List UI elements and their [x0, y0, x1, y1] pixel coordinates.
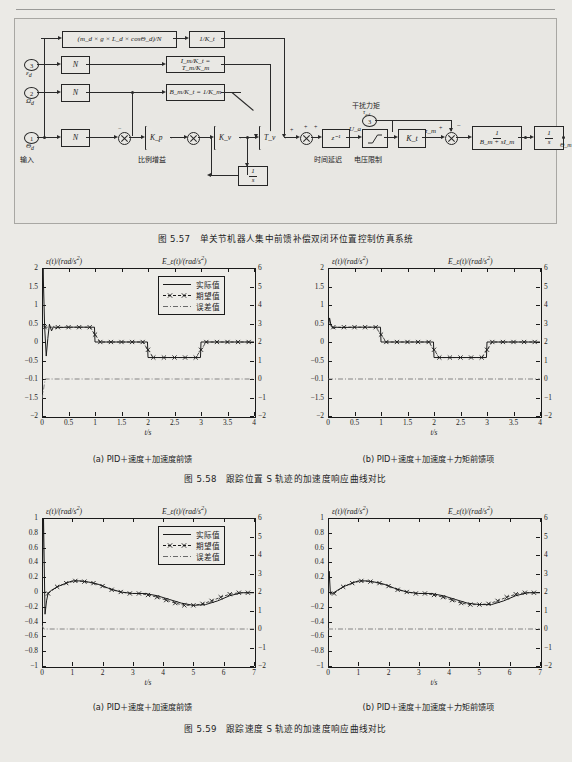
x-tick: 1 — [81, 418, 109, 427]
y-tick-left: 0 — [294, 337, 324, 346]
x-tick: 1 — [367, 418, 395, 427]
legend-label: 误差值 — [196, 301, 220, 312]
sum-velocity — [187, 132, 200, 145]
legend-key-icon — [162, 280, 192, 289]
y-tick-right: 2 — [544, 337, 570, 346]
y-tick-mark-left — [42, 416, 46, 417]
y-tick-left: 1.5 — [294, 282, 324, 291]
block-voltage-saturation — [362, 129, 388, 148]
y-tick-left: 1 — [8, 513, 38, 522]
y-tick-left: 0.2 — [8, 572, 38, 581]
block-inverse-kt: 1/K_t — [189, 31, 225, 48]
y-tick-right: 2 — [544, 587, 570, 596]
x-tick-mark-top — [540, 518, 541, 522]
series-marker — [219, 595, 223, 599]
sum-position-error — [118, 132, 131, 145]
signal-tau-m-label: τ_m — [425, 128, 436, 136]
block-diagram-5-57: (m_d × g × L_d × cosΘ_d)/N 1/K_t 3 εd N … — [14, 18, 557, 224]
legend-row: 误差值 — [162, 551, 220, 562]
y-tick-right: 1 — [544, 606, 570, 615]
series-layer-fig559b — [328, 518, 540, 666]
port-3-label: εd — [26, 70, 32, 79]
x-tick: 3 — [473, 418, 501, 427]
x-tick-mark-top — [254, 518, 255, 522]
y-tick-right: −1 — [258, 643, 284, 652]
x-tick: 1 — [58, 668, 86, 677]
y-axis-label-right-fig558a: E_ε(t)/(rad/s2) — [162, 254, 207, 266]
y-tick-left: −0.4 — [8, 617, 38, 626]
block-inertia-ratio: I_m/K_t = T_m/K_m — [166, 56, 225, 73]
series-实际值 — [328, 571, 540, 604]
y-tick-left: 0 — [8, 587, 38, 596]
y-tick-left: −0.1 — [294, 374, 324, 383]
voltage-limit-label: 电压限制 — [354, 154, 382, 164]
x-tick: 4 — [435, 668, 463, 677]
y-tick-left: 2 — [294, 263, 324, 272]
block-inner-integrator: 1s — [238, 166, 268, 186]
integ-den: s — [546, 139, 553, 146]
series-实际值 — [328, 318, 540, 358]
y-tick-left: 0.8 — [8, 528, 38, 537]
y-tick-right: 5 — [544, 532, 570, 541]
y-tick-right: 5 — [258, 282, 284, 291]
x-tick-mark-top — [254, 268, 255, 272]
x-tick: 5 — [179, 668, 207, 677]
y-tick-right: 4 — [544, 550, 570, 559]
legend-key-icon — [162, 530, 192, 539]
signal-ua-label: U_a — [349, 126, 361, 134]
saturation-icon — [367, 133, 383, 145]
sum-torque-disturbance — [445, 132, 458, 145]
y-tick-left: −0.5 — [294, 356, 324, 365]
x-tick: 2 — [89, 668, 117, 677]
y-tick-right: 1 — [258, 356, 284, 365]
series-marker — [486, 602, 490, 606]
diagram-frame — [14, 18, 557, 224]
y-axis-label-left-fig558a: ε(t)/(rad/s2) — [46, 254, 82, 266]
y-tick-right: 0 — [258, 624, 284, 633]
y-tick-left: 0.6 — [294, 543, 324, 552]
subcaption-558a: (a) PID＋速度＋加速度前馈 — [0, 452, 285, 464]
y-tick-mark-right — [250, 666, 254, 667]
y-tick-right: 3 — [544, 319, 570, 328]
legend-row: 实际值 — [162, 529, 220, 540]
y-tick-left: −0.4 — [294, 617, 324, 626]
x-tick: 4 — [240, 418, 268, 427]
y-tick-right: 3 — [544, 569, 570, 578]
x-tick: 3 — [119, 668, 147, 677]
x-tick: 3 — [187, 418, 215, 427]
y-tick-right: 1 — [258, 606, 284, 615]
proportional-gain-label: 比例增益 — [138, 154, 166, 164]
y-tick-right: 1 — [544, 356, 570, 365]
port-2-label: Ωd — [26, 98, 34, 107]
y-tick-right: −1 — [544, 643, 570, 652]
legend-row: 期望值 — [162, 290, 220, 301]
x-axis-label-fig559b: t/s — [328, 678, 540, 687]
legend-label: 期望值 — [196, 540, 220, 551]
y-tick-left: −0.8 — [294, 646, 324, 655]
gain-kv-label: K_v — [219, 133, 231, 142]
x-tick: 4 — [526, 418, 554, 427]
y-tick-left: −1.5 — [8, 393, 38, 402]
x-axis-label-fig558a: t/s — [42, 428, 254, 437]
x-tick: 2 — [420, 418, 448, 427]
legend-row: 实际值 — [162, 279, 220, 290]
y-tick-left: 0.4 — [8, 557, 38, 566]
block-damping-ratio: B_m/K_t = 1/K_m — [166, 84, 225, 101]
x-tick: 5 — [465, 668, 493, 677]
gain-tv-label: T_v — [264, 133, 275, 142]
x-tick-mark — [254, 662, 255, 666]
legend-row: 期望值 — [162, 540, 220, 551]
y-tick-mark-left — [328, 666, 332, 667]
y-tick-left: −0.2 — [294, 602, 324, 611]
y-tick-mark-left — [328, 416, 332, 417]
y-tick-right: 2 — [258, 337, 284, 346]
x-tick-mark-top — [540, 268, 541, 272]
series-layer-fig558b — [328, 268, 540, 416]
x-tick: 3.5 — [214, 418, 242, 427]
y-tick-left: −1.5 — [294, 393, 324, 402]
x-tick: 0 — [314, 418, 342, 427]
y-tick-right: 4 — [544, 300, 570, 309]
sum-position-minus: − — [118, 125, 121, 132]
block-torque-constant: K_t — [398, 129, 426, 148]
x-tick: 6 — [210, 668, 238, 677]
